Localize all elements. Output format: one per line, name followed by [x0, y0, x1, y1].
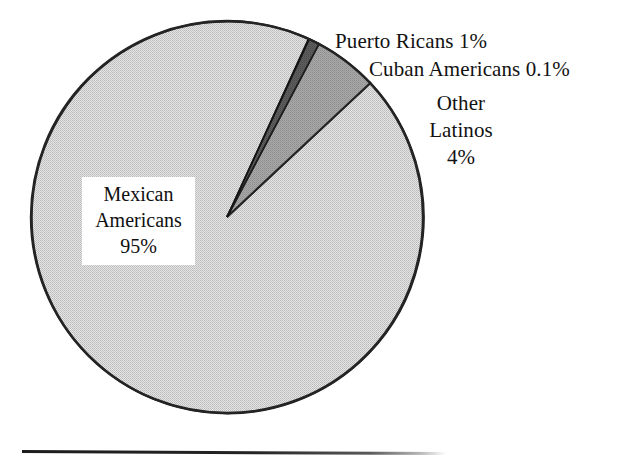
slice-label-mexican-americans-line2: Americans — [84, 207, 193, 233]
slice-label-mexican-americans-line1: Mexican — [84, 181, 193, 207]
slice-label-other-latinos-line3: 4% — [400, 144, 522, 171]
pie-chart-figure: Puerto Ricans 1% Cuban Americans 0.1% Ot… — [0, 0, 632, 459]
slice-label-other-latinos: Other Latinos 4% — [400, 90, 522, 171]
slice-label-mexican-americans: Mexican Americans 95% — [82, 177, 195, 265]
slice-label-mexican-americans-line3: 95% — [84, 233, 193, 259]
slice-label-cuban-americans: Cuban Americans 0.1% — [369, 57, 570, 81]
slice-label-other-latinos-line1: Other — [400, 90, 522, 117]
slice-label-puerto-ricans: Puerto Ricans 1% — [335, 29, 487, 53]
slice-label-other-latinos-line2: Latinos — [400, 117, 522, 144]
